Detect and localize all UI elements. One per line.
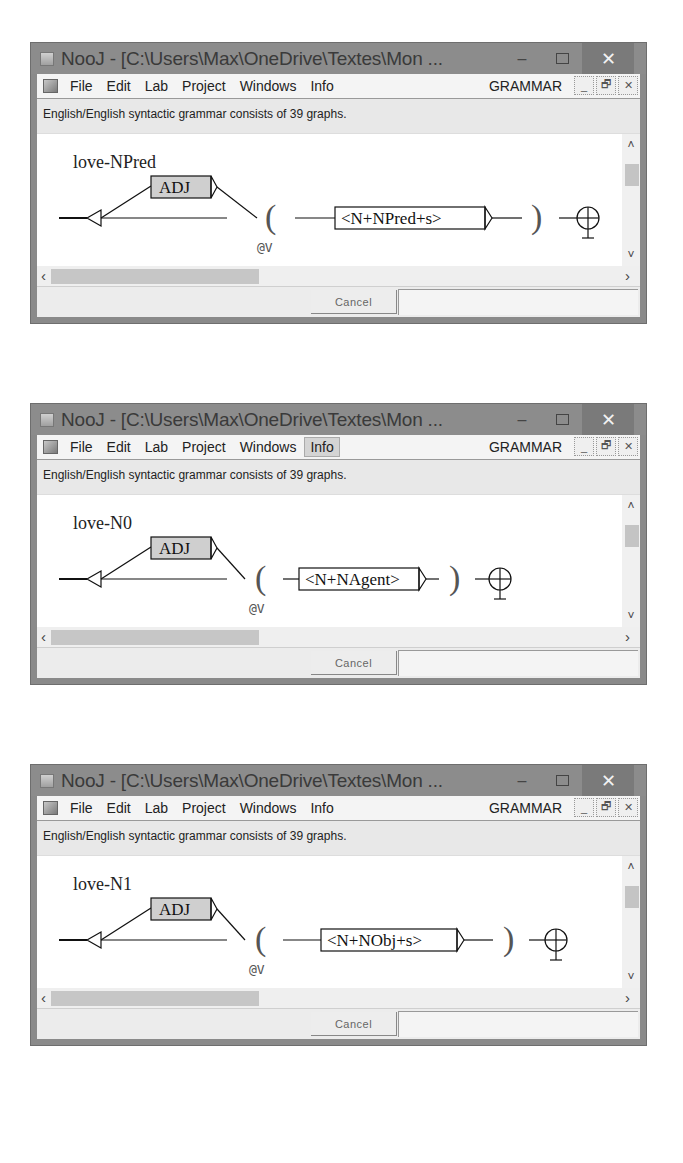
close-button[interactable]: ✕ (582, 404, 634, 435)
document-icon[interactable] (43, 79, 58, 93)
graph-canvas[interactable]: love-N0 ADJ ( @V <N+NAgent> ) (37, 494, 640, 627)
graph-canvas[interactable]: love-N1 ADJ ( @V <N+NObj+s> ) (37, 855, 640, 988)
menu-bar: File Edit Lab Project Windows Info GRAMM… (37, 74, 640, 99)
menu-file[interactable]: File (64, 76, 99, 96)
menu-info[interactable]: Info (304, 76, 339, 96)
scroll-down-icon[interactable]: ˅ (622, 609, 640, 623)
scroll-left-icon[interactable]: ‹ (41, 267, 46, 284)
scroll-up-icon[interactable]: ˄ (622, 138, 640, 152)
vertical-scroll-thumb[interactable] (625, 525, 639, 547)
menu-lab[interactable]: Lab (139, 798, 174, 818)
close-button[interactable]: ✕ (582, 765, 634, 796)
title-bar[interactable]: NooJ - [C:\Users\Max\OneDrive\Textes\Mon… (31, 43, 646, 74)
menu-lab[interactable]: Lab (139, 437, 174, 457)
nooj-window-3: NooJ - [C:\Users\Max\OneDrive\Textes\Mon… (30, 764, 647, 1046)
restore-icon: 🗗 (601, 437, 611, 456)
vertical-scrollbar[interactable]: ˄ ˅ (622, 495, 640, 627)
menu-file[interactable]: File (64, 798, 99, 818)
close-icon: ✕ (601, 409, 616, 431)
menu-project[interactable]: Project (176, 798, 232, 818)
document-icon[interactable] (43, 440, 58, 454)
mdi-minimize-button[interactable]: _ (574, 798, 594, 817)
maximize-icon (556, 414, 569, 425)
scroll-down-icon[interactable]: ˅ (622, 248, 640, 262)
footer-bar: Cancel (37, 1008, 640, 1039)
scroll-right-icon[interactable]: › (625, 989, 630, 1006)
menu-edit[interactable]: Edit (101, 798, 137, 818)
close-paren: ) (531, 198, 542, 236)
close-button[interactable]: ✕ (582, 43, 634, 74)
footer-bar: Cancel (37, 286, 640, 317)
minimize-button[interactable]: – (502, 765, 542, 796)
menu-bar: File Edit Lab Project Windows Info GRAMM… (37, 796, 640, 821)
cancel-button[interactable]: Cancel (311, 1012, 397, 1036)
scroll-up-icon[interactable]: ˄ (622, 860, 640, 874)
close-icon: ✕ (601, 770, 616, 792)
status-message: English/English syntactic grammar consis… (37, 99, 640, 133)
graph-canvas[interactable]: love-NPred ADJ ( @V <N+NPred+s> ) (37, 133, 640, 266)
progress-panel (398, 1011, 638, 1037)
grammar-label[interactable]: GRAMMAR (489, 800, 562, 816)
menu-edit[interactable]: Edit (101, 437, 137, 457)
grammar-panel: English/English syntactic grammar consis… (37, 460, 640, 678)
menu-windows[interactable]: Windows (234, 76, 303, 96)
close-paren: ) (449, 559, 460, 597)
adj-node-label: ADJ (159, 539, 191, 558)
close-paren: ) (503, 920, 514, 958)
variable-label: @V (249, 601, 265, 616)
mdi-restore-button[interactable]: 🗗 (596, 437, 616, 456)
grammar-label[interactable]: GRAMMAR (489, 439, 562, 455)
cancel-button[interactable]: Cancel (311, 290, 397, 314)
menu-windows[interactable]: Windows (234, 437, 303, 457)
mdi-restore-button[interactable]: 🗗 (596, 798, 616, 817)
vertical-scrollbar[interactable]: ˄ ˅ (622, 134, 640, 266)
mdi-restore-button[interactable]: 🗗 (596, 76, 616, 95)
vertical-scroll-thumb[interactable] (625, 886, 639, 908)
title-bar[interactable]: NooJ - [C:\Users\Max\OneDrive\Textes\Mon… (31, 765, 646, 796)
mdi-minimize-button[interactable]: _ (574, 437, 594, 456)
maximize-button[interactable] (542, 404, 582, 435)
minimize-button[interactable]: – (502, 404, 542, 435)
mdi-close-button[interactable]: ✕ (618, 798, 638, 817)
mdi-close-button[interactable]: ✕ (618, 76, 638, 95)
scroll-down-icon[interactable]: ˅ (622, 970, 640, 984)
menu-project[interactable]: Project (176, 76, 232, 96)
cancel-button[interactable]: Cancel (311, 651, 397, 675)
grammar-label[interactable]: GRAMMAR (489, 78, 562, 94)
scroll-left-icon[interactable]: ‹ (41, 989, 46, 1006)
vertical-scroll-thumb[interactable] (625, 164, 639, 186)
graph-diagram: ADJ ( @V <N+NPred+s> ) (37, 134, 627, 266)
minimize-icon: _ (581, 802, 587, 814)
menu-project[interactable]: Project (176, 437, 232, 457)
horizontal-scrollbar[interactable]: ‹ › (37, 627, 640, 647)
title-bar[interactable]: NooJ - [C:\Users\Max\OneDrive\Textes\Mon… (31, 404, 646, 435)
menu-info[interactable]: Info (304, 798, 339, 818)
maximize-button[interactable] (542, 765, 582, 796)
maximize-button[interactable] (542, 43, 582, 74)
scroll-left-icon[interactable]: ‹ (41, 628, 46, 645)
horizontal-scrollbar[interactable]: ‹ › (37, 266, 640, 286)
scroll-right-icon[interactable]: › (625, 267, 630, 284)
window-title: NooJ - [C:\Users\Max\OneDrive\Textes\Mon… (61, 409, 443, 431)
menu-info[interactable]: Info (304, 437, 339, 457)
menu-windows[interactable]: Windows (234, 798, 303, 818)
menu-file[interactable]: File (64, 437, 99, 457)
mdi-close-button[interactable]: ✕ (618, 437, 638, 456)
menu-edit[interactable]: Edit (101, 76, 137, 96)
vertical-scrollbar[interactable]: ˄ ˅ (622, 856, 640, 988)
initial-node-icon (87, 932, 101, 948)
menu-lab[interactable]: Lab (139, 76, 174, 96)
horizontal-scroll-thumb[interactable] (51, 630, 259, 645)
horizontal-scrollbar[interactable]: ‹ › (37, 988, 640, 1008)
variable-label: @V (257, 240, 273, 255)
document-icon[interactable] (43, 801, 58, 815)
horizontal-scroll-thumb[interactable] (51, 269, 259, 284)
progress-panel (398, 650, 638, 676)
menu-bar: File Edit Lab Project Windows Info GRAMM… (37, 435, 640, 460)
status-message: English/English syntactic grammar consis… (37, 821, 640, 855)
scroll-up-icon[interactable]: ˄ (622, 499, 640, 513)
scroll-right-icon[interactable]: › (625, 628, 630, 645)
minimize-button[interactable]: – (502, 43, 542, 74)
mdi-minimize-button[interactable]: _ (574, 76, 594, 95)
horizontal-scroll-thumb[interactable] (51, 991, 259, 1006)
